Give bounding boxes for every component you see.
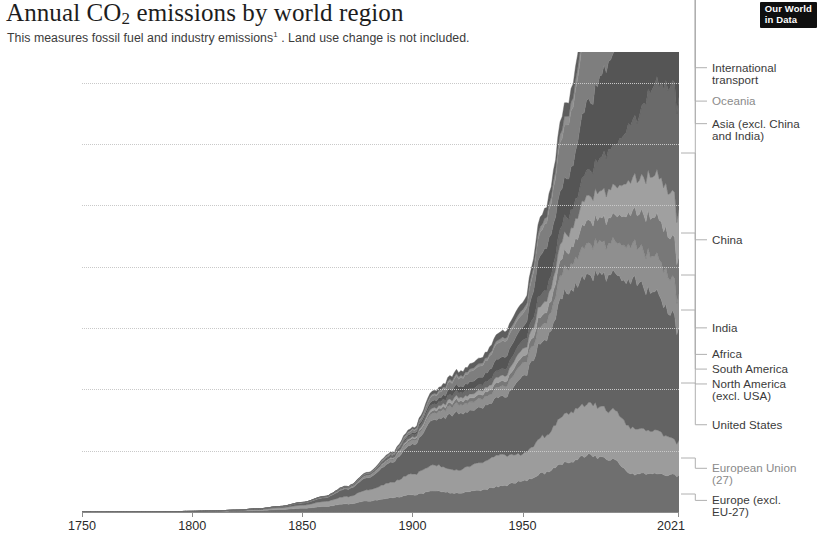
title-subscript: 2 xyxy=(121,9,130,28)
x-axis-tick-label: 1900 xyxy=(398,519,426,533)
x-axis-tick-label: 1950 xyxy=(509,519,537,533)
series-label-africa: Africa xyxy=(712,348,742,360)
gridline xyxy=(82,83,679,84)
gridline xyxy=(82,205,679,206)
label-leader-line xyxy=(681,308,709,386)
owid-logo[interactable]: Our World in Data xyxy=(760,2,817,28)
page-subtitle: This measures fossil fuel and industry e… xyxy=(7,30,470,45)
title-text-main: Annual CO xyxy=(6,0,121,26)
series-label-international-transport: International transport xyxy=(712,62,776,87)
label-leader-line xyxy=(681,151,709,330)
gridline xyxy=(82,267,679,268)
gridline xyxy=(82,451,679,452)
series-label-european-union-27: European Union (27) xyxy=(712,462,797,487)
label-leader-line xyxy=(681,0,709,70)
x-axis-tick xyxy=(412,512,413,517)
gridline xyxy=(82,328,679,329)
subtitle-text: This measures fossil fuel and industry e… xyxy=(7,31,273,45)
label-leader-line xyxy=(681,381,709,427)
label-leader-line xyxy=(681,273,709,371)
logo-line-1: Our World xyxy=(765,4,812,15)
series-label-asia-excl-china-and-india: Asia (excl. China and India) xyxy=(712,118,800,143)
series-label-north-america-excl-usa: North America (excl. USA) xyxy=(712,378,786,403)
x-axis-tick-label: 2021 xyxy=(657,519,685,533)
x-axis-line xyxy=(82,512,679,513)
series-label-india: India xyxy=(712,322,737,334)
x-axis-tick xyxy=(82,512,83,517)
series-label-oceania: Oceania xyxy=(712,95,756,107)
page-title: Annual CO2 emissions by world region xyxy=(6,0,404,27)
stacked-area-chart xyxy=(82,52,679,512)
x-axis-tick-label: 1850 xyxy=(288,519,316,533)
label-leader-line xyxy=(681,456,709,470)
chart-page: Annual CO2 emissions by world region Thi… xyxy=(0,0,821,542)
label-leader-line xyxy=(681,0,709,242)
x-axis-tick xyxy=(192,512,193,517)
label-leader-line xyxy=(681,0,709,126)
x-axis-tick-label: 1750 xyxy=(68,519,96,533)
label-leader-line xyxy=(681,492,709,502)
logo-line-2: in Data xyxy=(765,15,812,26)
series-label-united-states: United States xyxy=(712,419,782,431)
x-axis-tick-label: 1800 xyxy=(178,519,206,533)
label-leader-line xyxy=(681,231,709,356)
series-label-south-america: South America xyxy=(712,363,788,375)
title-text-rest: emissions by world region xyxy=(130,0,403,26)
series-label-china: China xyxy=(712,234,743,246)
x-axis-tick xyxy=(678,512,679,517)
plot-area: 0 t5 billion t10 billion t15 billion t20… xyxy=(82,52,679,512)
subtitle-text-rest: . Land use change is not included. xyxy=(278,31,470,45)
x-axis-tick xyxy=(523,512,524,517)
x-axis-tick xyxy=(302,512,303,517)
gridline xyxy=(82,389,679,390)
series-label-europe-excl-eu-27: Europe (excl. EU-27) xyxy=(712,494,781,519)
label-leader-line xyxy=(681,0,709,103)
gridline xyxy=(82,144,679,145)
